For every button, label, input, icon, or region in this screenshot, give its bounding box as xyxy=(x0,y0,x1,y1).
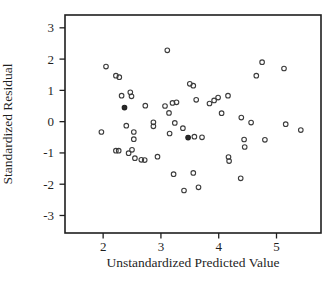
data-point xyxy=(104,64,109,69)
data-point xyxy=(155,154,160,159)
data-point xyxy=(163,104,168,109)
data-point xyxy=(219,111,224,116)
data-point xyxy=(216,95,221,100)
data-point xyxy=(194,98,199,103)
plot-frame xyxy=(65,15,321,233)
data-point xyxy=(200,135,205,140)
data-point xyxy=(132,130,137,135)
data-point xyxy=(242,145,247,150)
data-point xyxy=(239,115,244,120)
data-point xyxy=(181,126,186,131)
x-axis-title: Unstandardized Predicted Value xyxy=(107,255,280,270)
y-tick-label: 2 xyxy=(48,52,55,67)
data-point xyxy=(191,171,196,176)
data-point xyxy=(263,138,268,143)
data-point xyxy=(124,123,129,128)
data-point xyxy=(282,66,287,71)
x-tick-label: 2 xyxy=(100,239,107,254)
scatter-plot-canvas: 3210-1-2-3 2345 Standardized Residual Un… xyxy=(0,0,336,286)
data-point xyxy=(249,120,254,125)
x-axis-ticks: 2345 xyxy=(100,233,280,254)
data-point xyxy=(173,121,178,126)
x-tick-label: 3 xyxy=(158,239,165,254)
data-point xyxy=(171,172,176,177)
data-point xyxy=(165,48,170,53)
data-point xyxy=(207,101,212,106)
y-tick-label: 0 xyxy=(48,114,55,129)
data-point xyxy=(133,156,138,161)
residual-scatter-figure: 3210-1-2-3 2345 Standardized Residual Un… xyxy=(0,0,336,286)
data-point xyxy=(242,137,247,142)
data-point xyxy=(226,93,231,98)
y-axis-ticks: 3210-1-2-3 xyxy=(43,20,65,223)
y-tick-label: 1 xyxy=(48,83,55,98)
data-point xyxy=(260,60,265,65)
data-point xyxy=(192,134,197,139)
y-tick-label: -2 xyxy=(43,177,54,192)
data-point xyxy=(130,148,135,153)
x-tick-label: 4 xyxy=(215,239,222,254)
data-point xyxy=(167,131,172,136)
x-tick-label: 5 xyxy=(273,239,280,254)
data-point xyxy=(143,103,148,108)
data-point-bold xyxy=(122,105,127,110)
data-points-layer xyxy=(99,48,303,193)
y-tick-label: -3 xyxy=(43,208,54,223)
data-point xyxy=(119,93,124,98)
data-point xyxy=(283,122,288,127)
data-point xyxy=(99,130,104,135)
data-point xyxy=(167,111,172,116)
y-tick-label: 3 xyxy=(48,20,55,35)
y-axis-title: Standardized Residual xyxy=(0,63,15,184)
data-point xyxy=(132,137,137,142)
data-point xyxy=(196,185,201,190)
data-point xyxy=(238,176,243,181)
data-point-bold xyxy=(186,135,191,140)
data-point xyxy=(254,73,259,78)
data-point xyxy=(299,128,304,133)
data-point xyxy=(182,188,187,193)
y-tick-label: -1 xyxy=(43,145,54,160)
